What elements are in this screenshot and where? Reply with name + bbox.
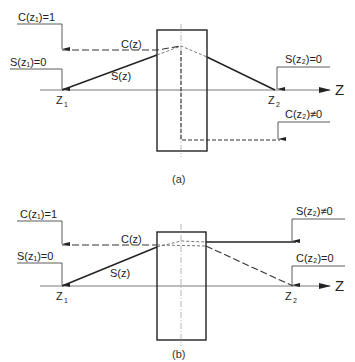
c-z1-label-b: C(z₁)=1 [20, 208, 57, 220]
s-z2-leader-a [277, 67, 330, 89]
c-z2-leader-a [278, 122, 330, 139]
c-z2-label-a: C(z₂)≠0 [285, 108, 322, 120]
z1-sub-a: 1 [64, 101, 68, 108]
panel-b: Z C(z₁)=1 S(z₁)=0 C(z) S(z) Z 1 Z 2 S(z₂… [17, 205, 345, 360]
s-z2-leader-b [292, 219, 345, 241]
c-z1-label-a: C(z₁)=1 [18, 11, 55, 23]
c-z-label-a: C(z) [121, 38, 142, 50]
c-z-label-b: C(z) [121, 233, 142, 245]
s-z1-leader-b [17, 263, 62, 285]
panel-a: Z C(z₁)=1 S(z₁)=0 C(z) S(z) Z 1 Z 2 S(z₂… [10, 11, 344, 185]
cosine-ray-inside-a [181, 51, 280, 140]
s-z-label-a: S(z) [111, 70, 131, 82]
sine-ray-exit-a [207, 57, 275, 90]
s-z2-label-a: S(z₂)=0 [285, 53, 322, 65]
z2-sub-a: 2 [276, 101, 280, 108]
diagram-canvas: Z C(z₁)=1 S(z₁)=0 C(z) S(z) Z 1 Z 2 S(z₂… [0, 0, 355, 362]
s-z1-label-b: S(z₁)=0 [17, 250, 53, 262]
sine-ray-a [62, 55, 157, 90]
z2-label-a: Z [268, 94, 275, 106]
caption-b: (b) [172, 348, 185, 360]
cosine-ray-exit-b [206, 246, 293, 286]
s-z1-leader-a [10, 69, 62, 89]
z1-label-a: Z [56, 94, 63, 106]
c-z2-label-b: C(z₂)=0 [296, 252, 334, 264]
s-z1-label-a: S(z₁)=0 [10, 56, 46, 68]
s-z-label-b: S(z) [110, 267, 130, 279]
z1-label-b: Z [56, 290, 63, 302]
s-z2-label-b: S(z₂)≠0 [296, 205, 333, 217]
sine-ray-inside-a [157, 46, 207, 57]
c-z1-leader-a [17, 24, 62, 49]
z2-sub-b: 2 [293, 297, 297, 304]
z2-label-b: Z [285, 290, 292, 302]
z-axis-label-a: Z [335, 81, 344, 98]
lens-box-a [157, 30, 207, 151]
z1-sub-b: 1 [64, 297, 68, 304]
c-z1-leader-b [17, 221, 62, 244]
z-axis-label-b: Z [335, 277, 344, 294]
diagram-svg: Z C(z₁)=1 S(z₁)=0 C(z) S(z) Z 1 Z 2 S(z₂… [0, 0, 355, 362]
caption-a: (a) [172, 173, 185, 185]
